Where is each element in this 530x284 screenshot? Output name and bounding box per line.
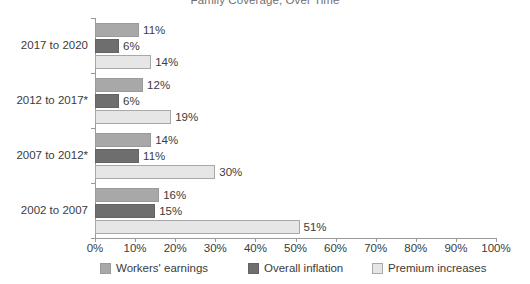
bar-value-label: 16%	[159, 189, 186, 201]
y-axis-tick	[91, 128, 95, 129]
bar-row: 19%	[95, 110, 496, 124]
x-axis-tick-label: 20%	[164, 242, 187, 254]
legend-label: Overall inflation	[264, 262, 343, 274]
bar[interactable]	[95, 165, 215, 179]
x-axis-tick-label: 90%	[444, 242, 467, 254]
bar-value-label: 51%	[300, 221, 327, 233]
x-axis-tick-label: 10%	[124, 242, 147, 254]
chart-legend: Workers' earningsOverall inflationPremiu…	[0, 262, 530, 280]
bar[interactable]	[95, 78, 143, 92]
x-axis-tick-label: 40%	[244, 242, 267, 254]
y-axis-tick	[91, 73, 95, 74]
bar-value-label: 19%	[171, 111, 198, 123]
bar[interactable]	[95, 55, 151, 69]
bar[interactable]	[95, 94, 119, 108]
x-axis-tick-label: 50%	[284, 242, 307, 254]
bar-row: 14%	[95, 55, 496, 69]
bar-row: 15%	[95, 204, 496, 218]
bar[interactable]	[95, 220, 300, 234]
bar-row: 11%	[95, 149, 496, 163]
bar[interactable]	[95, 149, 139, 163]
x-axis-tick-label: 70%	[364, 242, 387, 254]
bar[interactable]	[95, 23, 139, 37]
legend-swatch-icon	[100, 263, 111, 274]
plot-area: 11%6%14%12%6%19%14%11%30%16%15%51%	[95, 18, 496, 238]
bar-value-label: 15%	[155, 205, 182, 217]
bar-row: 30%	[95, 165, 496, 179]
bar-row: 16%	[95, 188, 496, 202]
bar-value-label: 6%	[119, 40, 140, 52]
x-axis-tick-label: 100%	[481, 242, 510, 254]
x-axis-tick-label: 80%	[404, 242, 427, 254]
y-axis-category-label: 2017 to 2020	[0, 39, 88, 51]
chart-title: Family Coverage, Over Time	[0, 0, 530, 7]
bar-value-label: 14%	[151, 56, 178, 68]
y-axis-category-label: 2002 to 2007	[0, 204, 88, 216]
x-axis-tick-label: 0%	[87, 242, 104, 254]
bar-value-label: 6%	[119, 95, 140, 107]
legend-item[interactable]: Workers' earnings	[100, 262, 208, 274]
bar[interactable]	[95, 204, 155, 218]
y-axis-tick	[91, 18, 95, 19]
bar-value-label: 11%	[139, 150, 165, 162]
bar[interactable]	[95, 188, 159, 202]
bar-row: 6%	[95, 39, 496, 53]
x-axis-tick-label: 30%	[204, 242, 227, 254]
bar-value-label: 14%	[151, 134, 178, 146]
bar-row: 12%	[95, 78, 496, 92]
legend-label: Premium increases	[388, 262, 486, 274]
x-axis-tick-label: 60%	[324, 242, 347, 254]
legend-label: Workers' earnings	[116, 262, 208, 274]
bar-value-label: 12%	[143, 79, 170, 91]
bar-row: 14%	[95, 133, 496, 147]
bar-row: 11%	[95, 23, 496, 37]
legend-swatch-icon	[248, 263, 259, 274]
bar[interactable]	[95, 133, 151, 147]
bar-value-label: 11%	[139, 24, 165, 36]
bar-value-label: 30%	[215, 166, 242, 178]
y-axis-tick	[91, 183, 95, 184]
legend-item[interactable]: Premium increases	[372, 262, 486, 274]
bar[interactable]	[95, 39, 119, 53]
bar-row: 51%	[95, 220, 496, 234]
y-axis-category-label: 2007 to 2012*	[0, 149, 88, 161]
bar[interactable]	[95, 110, 171, 124]
bar-chart: Family Coverage, Over Time 2017 to 20202…	[0, 0, 530, 284]
bar-row: 6%	[95, 94, 496, 108]
y-axis-category-label: 2012 to 2017*	[0, 94, 88, 106]
legend-swatch-icon	[372, 263, 383, 274]
legend-item[interactable]: Overall inflation	[248, 262, 343, 274]
